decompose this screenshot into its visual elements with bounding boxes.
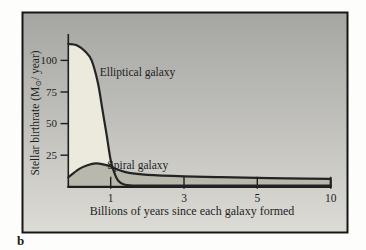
y-tick-label: 75: [46, 86, 58, 98]
figure-panel-b: 25507510013510Billions of years since ea…: [0, 0, 366, 250]
x-tick-label: 3: [181, 192, 187, 204]
y-axis-title: Stellar birthrate (M⊙/ year): [29, 50, 43, 175]
x-axis-title: Billions of years since each galaxy form…: [90, 204, 295, 218]
y-tick-label: 25: [46, 149, 58, 161]
x-tick-label: 5: [254, 192, 260, 204]
x-tick-label: 10: [325, 192, 337, 204]
curve-label-spiral: Spiral galaxy: [107, 159, 168, 172]
y-tick-label: 100: [41, 54, 58, 66]
curve-label-elliptical: Elliptical galaxy: [100, 66, 176, 79]
x-tick-label: 1: [108, 192, 114, 204]
panel-label: b: [17, 233, 24, 249]
galaxy-birthrate-chart: 25507510013510Billions of years since ea…: [0, 0, 366, 250]
y-tick-label: 50: [46, 117, 58, 129]
